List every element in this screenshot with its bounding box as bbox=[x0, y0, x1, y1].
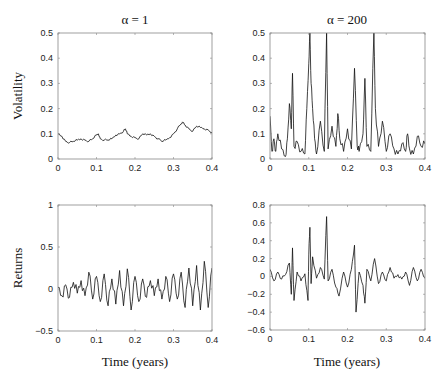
title-alpha-200: α = 200 bbox=[327, 12, 367, 27]
data-line bbox=[58, 261, 212, 310]
x-tick-label: 0.2 bbox=[129, 163, 142, 173]
x-tick-label: 0.4 bbox=[206, 163, 219, 173]
y-tick-label: 0.5 bbox=[252, 28, 265, 38]
y-tick-label: 0.2 bbox=[40, 104, 53, 114]
y-tick-label: 0.1 bbox=[252, 129, 265, 139]
figure: α = 1 α = 200 Volatility Returns Time (y… bbox=[0, 0, 447, 387]
x-tick-label: 0.1 bbox=[90, 335, 103, 345]
y-tick-label: 0.3 bbox=[40, 78, 53, 88]
x-tick-label: 0 bbox=[55, 335, 60, 345]
x-tick-label: 0 bbox=[55, 163, 60, 173]
y-tick-label: 0.2 bbox=[252, 254, 265, 264]
panel-volatility-alpha-1: 00.10.20.30.400.10.20.30.40.5 bbox=[40, 28, 218, 173]
x-tick-label: 0.3 bbox=[380, 163, 393, 173]
panel-returns-alpha-200: 00.10.20.30.4−0.6−0.4−0.200.20.40.60.8 bbox=[247, 200, 431, 344]
x-tick-label: 0.4 bbox=[206, 335, 219, 345]
y-tick-label: 0.4 bbox=[252, 53, 265, 63]
y-tick-label: 0.5 bbox=[40, 242, 53, 252]
x-tick-label: 0.4 bbox=[419, 334, 432, 344]
y-tick-label: 0 bbox=[48, 284, 53, 294]
ylabel-returns: Returns bbox=[10, 248, 25, 288]
x-tick-label: 0.3 bbox=[167, 163, 180, 173]
x-tick-label: 0 bbox=[267, 334, 272, 344]
y-tick-label: 0.6 bbox=[252, 218, 265, 228]
y-tick-label: 0.8 bbox=[252, 200, 265, 210]
y-tick-label: −0.6 bbox=[247, 325, 265, 335]
x-tick-label: 0.4 bbox=[419, 163, 432, 173]
data-line bbox=[58, 122, 212, 143]
xlabel-right: Time (years) bbox=[314, 354, 380, 369]
y-tick-label: −0.5 bbox=[35, 326, 53, 336]
panel-returns-alpha-1: 00.10.20.30.4−0.500.51 bbox=[35, 200, 218, 345]
x-tick-label: 0.1 bbox=[302, 163, 315, 173]
x-tick-label: 0.2 bbox=[341, 334, 354, 344]
x-tick-label: 0.2 bbox=[341, 163, 354, 173]
x-tick-label: 0.2 bbox=[129, 335, 142, 345]
xlabel-left: Time (years) bbox=[102, 354, 168, 369]
y-tick-label: 0.1 bbox=[40, 129, 53, 139]
y-tick-label: 0 bbox=[260, 271, 265, 281]
y-tick-label: 0.4 bbox=[252, 236, 265, 246]
x-tick-label: 0 bbox=[267, 163, 272, 173]
y-tick-label: 0.3 bbox=[252, 78, 265, 88]
x-tick-label: 0.3 bbox=[380, 334, 393, 344]
y-tick-label: 1 bbox=[48, 200, 53, 210]
y-tick-label: 0.5 bbox=[40, 28, 53, 38]
data-line bbox=[270, 217, 425, 313]
x-tick-label: 0.1 bbox=[90, 163, 103, 173]
data-line bbox=[270, 33, 425, 157]
y-tick-label: 0.4 bbox=[40, 53, 53, 63]
x-tick-label: 0.3 bbox=[167, 335, 180, 345]
y-tick-label: 0 bbox=[48, 154, 53, 164]
plot-frame bbox=[58, 33, 212, 159]
panel-volatility-alpha-200: 00.10.20.30.400.10.20.30.40.5 bbox=[252, 28, 431, 173]
y-tick-label: −0.4 bbox=[247, 307, 265, 317]
title-alpha-1: α = 1 bbox=[121, 12, 148, 27]
y-tick-label: 0 bbox=[260, 154, 265, 164]
ylabel-volatility: Volatility bbox=[10, 71, 25, 120]
y-tick-label: −0.2 bbox=[247, 289, 265, 299]
y-tick-label: 0.2 bbox=[252, 104, 265, 114]
x-tick-label: 0.1 bbox=[302, 334, 315, 344]
